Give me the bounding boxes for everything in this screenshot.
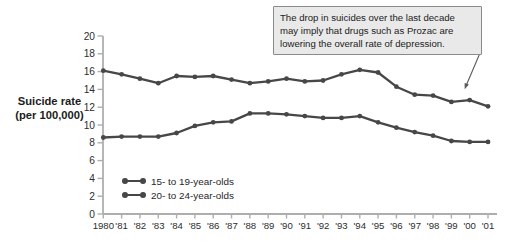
x-tick-label: '85 bbox=[189, 220, 202, 231]
legend: 15- to 19-year-olds 20- to 24-year-olds bbox=[121, 174, 234, 202]
annotation-arrowhead-icon bbox=[465, 83, 469, 89]
data-point bbox=[339, 116, 344, 121]
data-point bbox=[174, 131, 179, 136]
legend-label: 15- to 19-year-olds bbox=[151, 176, 234, 187]
y-tick-label: 20 bbox=[84, 31, 96, 42]
annotation-line-3: lowering the overall rate of depression. bbox=[280, 37, 476, 50]
data-point bbox=[248, 111, 253, 116]
x-tick-label: '01 bbox=[482, 220, 495, 231]
data-point bbox=[101, 135, 106, 140]
data-point bbox=[302, 114, 307, 119]
x-tick-label: '96 bbox=[390, 220, 403, 231]
x-tick-label: '91 bbox=[299, 220, 312, 231]
y-tick-label: 16 bbox=[84, 66, 96, 77]
data-point bbox=[449, 139, 454, 144]
data-point bbox=[431, 93, 436, 98]
x-tick-label: '87 bbox=[225, 220, 238, 231]
data-point bbox=[138, 76, 143, 81]
legend-label: 20- to 24-year-olds bbox=[151, 190, 234, 201]
y-tick-label: 0 bbox=[89, 209, 95, 220]
data-point bbox=[449, 100, 454, 105]
data-point bbox=[467, 140, 472, 145]
x-tick-label: '97 bbox=[408, 220, 421, 231]
data-point bbox=[284, 112, 289, 117]
data-point bbox=[321, 78, 326, 83]
data-point bbox=[193, 124, 198, 129]
x-tick-label: 1980 bbox=[93, 220, 114, 231]
data-point bbox=[211, 120, 216, 125]
data-point bbox=[486, 140, 491, 145]
x-tick-label: '99 bbox=[445, 220, 458, 231]
legend-item-20-24: 20- to 24-year-olds bbox=[121, 188, 234, 202]
data-point bbox=[156, 134, 161, 139]
annotation-box: The drop in suicides over the last decad… bbox=[273, 6, 482, 55]
y-tick-label: 8 bbox=[89, 137, 95, 148]
x-tick-label: '89 bbox=[262, 220, 275, 231]
annotation-line-1: The drop in suicides over the last decad… bbox=[280, 11, 476, 24]
data-point bbox=[229, 119, 234, 124]
y-axis-title-line1: Suicide rate bbox=[0, 95, 99, 109]
legend-item-15-19: 15- to 19-year-olds bbox=[121, 174, 234, 188]
x-tick-label: '81 bbox=[115, 220, 128, 231]
x-tick-label: '86 bbox=[207, 220, 220, 231]
data-point bbox=[156, 81, 161, 86]
x-tick-label: '90 bbox=[280, 220, 293, 231]
data-point bbox=[357, 67, 362, 72]
data-point bbox=[412, 92, 417, 97]
y-tick-label: 18 bbox=[84, 48, 96, 59]
x-tick-label: '93 bbox=[335, 220, 348, 231]
series-line-0 bbox=[103, 113, 488, 141]
data-point bbox=[193, 75, 198, 80]
data-point bbox=[339, 72, 344, 77]
x-tick-label: '83 bbox=[152, 220, 165, 231]
line-marker-icon bbox=[124, 194, 144, 196]
x-tick-label: '82 bbox=[134, 220, 147, 231]
data-point bbox=[467, 98, 472, 103]
annotation-line-2: may imply that drugs such as Prozac are bbox=[280, 24, 476, 37]
y-axis-title: Suicide rate (per 100,000) bbox=[0, 95, 99, 122]
suicide-rate-chart: 024681012141618201980'81'82'83'84'85'86'… bbox=[0, 0, 506, 246]
x-tick-label: '92 bbox=[317, 220, 330, 231]
y-axis-title-line2: (per 100,000) bbox=[0, 109, 99, 123]
x-tick-label: '98 bbox=[427, 220, 440, 231]
x-tick-label: '95 bbox=[372, 220, 385, 231]
x-tick-label: '00 bbox=[463, 220, 476, 231]
data-point bbox=[284, 76, 289, 81]
data-point bbox=[376, 70, 381, 75]
y-tick-label: 14 bbox=[84, 84, 96, 95]
data-point bbox=[211, 74, 216, 79]
data-point bbox=[321, 116, 326, 121]
data-point bbox=[394, 84, 399, 89]
data-point bbox=[266, 79, 271, 84]
data-point bbox=[248, 81, 253, 86]
data-point bbox=[266, 111, 271, 116]
data-point bbox=[101, 68, 106, 73]
x-tick-label: '94 bbox=[354, 220, 367, 231]
data-point bbox=[486, 104, 491, 109]
data-point bbox=[119, 134, 124, 139]
data-point bbox=[174, 74, 179, 79]
data-point bbox=[119, 72, 124, 77]
annotation-arrow-line bbox=[466, 53, 480, 86]
data-point bbox=[302, 79, 307, 84]
line-marker-icon bbox=[124, 180, 144, 182]
data-point bbox=[376, 120, 381, 125]
y-tick-label: 4 bbox=[89, 173, 95, 184]
series-line-1 bbox=[103, 70, 488, 107]
data-point bbox=[229, 77, 234, 82]
data-point bbox=[431, 133, 436, 138]
data-point bbox=[394, 125, 399, 130]
x-tick-label: '88 bbox=[244, 220, 257, 231]
data-point bbox=[412, 130, 417, 135]
x-tick-label: '84 bbox=[170, 220, 183, 231]
y-tick-label: 6 bbox=[89, 155, 95, 166]
data-point bbox=[357, 114, 362, 119]
data-point bbox=[138, 134, 143, 139]
y-tick-label: 2 bbox=[89, 191, 95, 202]
